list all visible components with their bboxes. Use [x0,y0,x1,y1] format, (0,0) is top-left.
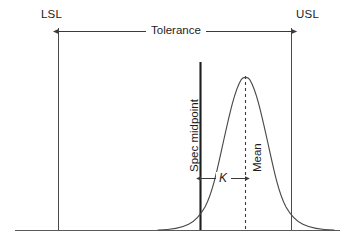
mean-label: Mean [252,143,264,172]
usl-label: USL [296,9,319,21]
process-capability-diagram: LSL USL Tolerance Spec midpoint Mean K [0,0,352,245]
tolerance-label: Tolerance [147,25,205,37]
k-label: K [216,172,230,184]
diagram-canvas [0,0,352,245]
spec-midpoint-label: Spec midpoint [189,99,201,172]
lsl-label: LSL [41,9,62,21]
